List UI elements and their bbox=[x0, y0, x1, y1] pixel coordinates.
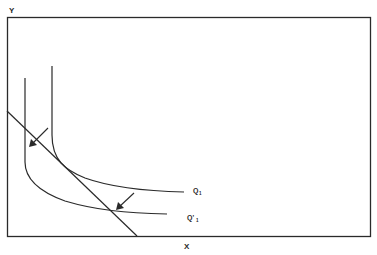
svg-text:1: 1 bbox=[199, 191, 202, 196]
isocost-line bbox=[7, 111, 137, 236]
y-axis-label: Y bbox=[9, 6, 15, 15]
isoquant-diagram: Y X Q 1 Q' 1 bbox=[0, 0, 377, 255]
q1-prime-label: Q' 1 bbox=[187, 214, 199, 223]
svg-text:1: 1 bbox=[196, 218, 199, 223]
q1-label: Q 1 bbox=[193, 187, 202, 196]
svg-text:Q': Q' bbox=[187, 214, 194, 222]
plot-frame bbox=[8, 18, 371, 237]
shift-arrow-icon bbox=[116, 193, 134, 210]
isoquant-q1-prime-curve bbox=[25, 78, 167, 214]
shift-arrow-icon bbox=[29, 128, 48, 147]
x-axis-label: X bbox=[184, 242, 190, 251]
